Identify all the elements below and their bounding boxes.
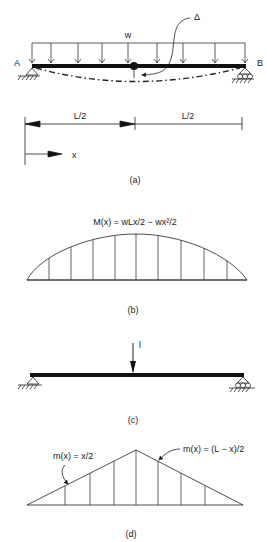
right-moment-equation: m(x) = (L − x)/2 — [183, 444, 244, 454]
load-label: w — [124, 30, 132, 40]
support-left-label: A — [14, 58, 20, 68]
beam — [30, 373, 244, 377]
beam — [32, 64, 246, 68]
half-span-right-label: L/2 — [182, 111, 195, 121]
span-dimensions — [25, 117, 242, 165]
caption-b: (b) — [128, 305, 139, 315]
caption-c: (c) — [128, 415, 139, 425]
moment-parabola — [27, 234, 247, 280]
figure-d: m(x) = x/2 m(x) = (L − x)/2 (d) — [27, 444, 244, 539]
distributed-load-arrows — [29, 43, 248, 63]
figure-a: w Δ A B — [14, 12, 263, 185]
unit-load-label: l — [139, 340, 141, 350]
roller-support-right — [232, 68, 254, 83]
pin-support-left — [18, 377, 42, 389]
left-moment-equation: m(x) = x/2 — [53, 451, 93, 461]
half-span-left-label: L/2 — [74, 111, 87, 121]
pin-support-left — [18, 68, 40, 80]
deflection-label: Δ — [194, 12, 200, 22]
right-equation-leader — [159, 449, 180, 460]
moment-ordinates — [49, 234, 227, 280]
beam-diagram: w Δ A B — [0, 0, 267, 542]
deflected-shape — [36, 68, 240, 82]
support-right-label: B — [257, 58, 263, 68]
figure-c: l (c) — [18, 340, 255, 425]
figure-b: M(x) = wLx/2 − wx²/2 (b) — [27, 217, 247, 315]
moment-equation: M(x) = wLx/2 − wx²/2 — [93, 217, 177, 227]
caption-d: (d) — [126, 529, 137, 539]
left-equation-leader — [62, 465, 68, 484]
unit-load-arrow — [130, 361, 136, 373]
x-axis-label: x — [72, 150, 77, 160]
roller-support-right — [229, 377, 255, 392]
caption-a: (a) — [130, 175, 141, 185]
